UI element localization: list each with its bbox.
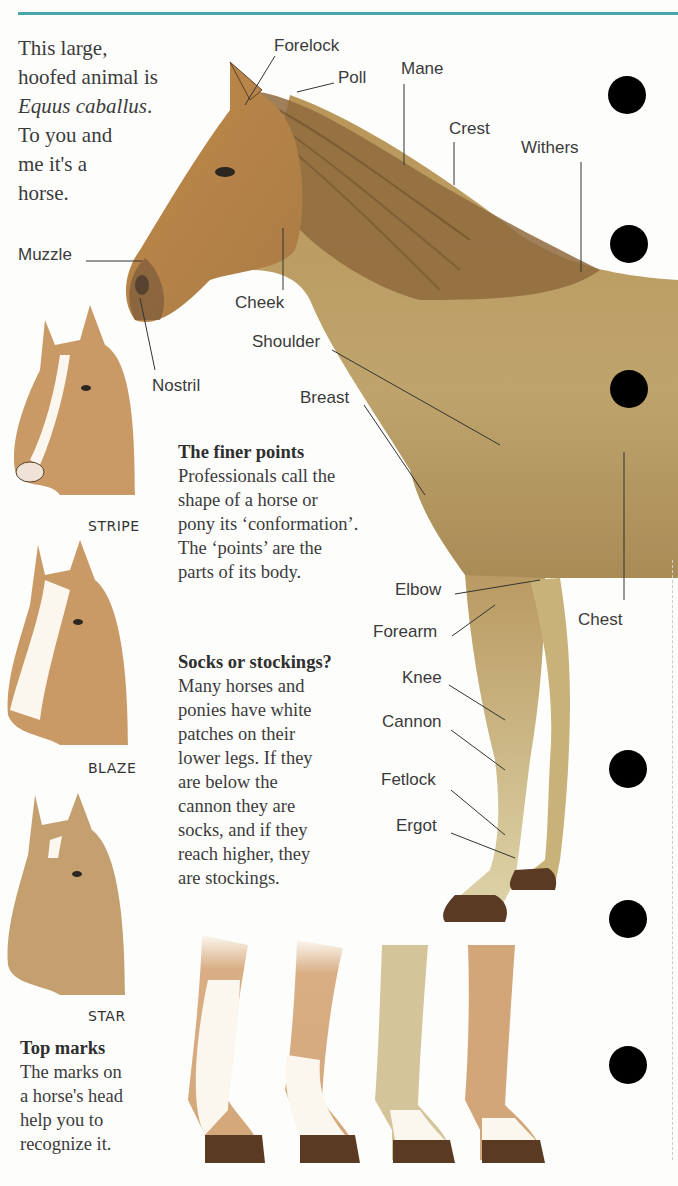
- label-nostril: Nostril: [152, 376, 200, 396]
- label-cheek: Cheek: [235, 293, 284, 313]
- text-line: pony its ‘conformation’.: [178, 514, 358, 534]
- label-knee: Knee: [402, 668, 442, 688]
- intro-paragraph: This large, hoofed animal is Equus cabal…: [18, 34, 198, 208]
- perforation-line: [672, 560, 673, 1160]
- text-line: Many horses and: [178, 676, 304, 696]
- intro-line: This large,: [18, 36, 107, 60]
- binder-hole: [610, 370, 648, 408]
- text-line: recognize it.: [20, 1134, 111, 1154]
- label-shoulder: Shoulder: [252, 332, 320, 352]
- label-crest: Crest: [449, 119, 490, 139]
- intro-line: To you and: [18, 123, 112, 147]
- label-muzzle: Muzzle: [18, 245, 72, 265]
- caption-blaze: BLAZE: [88, 760, 136, 776]
- socks-section: Socks or stockings? Many horses and poni…: [178, 650, 378, 890]
- leg-white-fetlock-illustration: [375, 945, 455, 1163]
- species-name: Equus caballus: [18, 94, 147, 118]
- text-line: ponies have white: [178, 700, 312, 720]
- label-mane: Mane: [401, 59, 444, 79]
- head-blaze-illustration: [8, 540, 128, 745]
- finer-points-section: The finer points Professionals call the …: [178, 440, 418, 584]
- binder-hole: [608, 76, 646, 114]
- text-line: parts of its body.: [178, 562, 301, 582]
- text-line: patches on their: [178, 724, 295, 744]
- caption-stripe: STRIPE: [88, 518, 140, 534]
- socks-heading: Socks or stockings?: [178, 650, 378, 674]
- leg-sock-illustration: [285, 940, 360, 1163]
- label-fetlock: Fetlock: [381, 770, 436, 790]
- text-line: are below the: [178, 772, 278, 792]
- label-forelock: Forelock: [274, 36, 339, 56]
- label-forearm: Forearm: [373, 622, 437, 642]
- text-line: socks, and if they: [178, 820, 307, 840]
- label-cannon: Cannon: [382, 712, 442, 732]
- text-line: help you to: [20, 1110, 103, 1130]
- text-line: are stockings.: [178, 868, 280, 888]
- text-line: The marks on: [20, 1062, 122, 1082]
- binder-hole: [609, 750, 647, 788]
- binder-hole: [610, 225, 648, 263]
- text-line: lower legs. If they: [178, 748, 313, 768]
- label-poll: Poll: [338, 68, 366, 88]
- text-line: shape of a horse or: [178, 490, 318, 510]
- leg-stocking-illustration: [188, 935, 265, 1163]
- caption-star: STAR: [88, 1008, 126, 1024]
- head-stripe-illustration: [14, 305, 135, 495]
- label-breast: Breast: [300, 388, 349, 408]
- text-line: Professionals call the: [178, 466, 335, 486]
- intro-line: horse.: [18, 181, 69, 205]
- intro-line: hoofed animal is: [18, 65, 158, 89]
- leg-white-coronet-illustration: [465, 945, 545, 1163]
- intro-line: me it's a: [18, 152, 87, 176]
- text-line: cannon they are: [178, 796, 295, 816]
- label-withers: Withers: [521, 138, 579, 158]
- binder-hole: [609, 1046, 647, 1084]
- label-ergot: Ergot: [396, 816, 437, 836]
- top-marks-heading: Top marks: [20, 1036, 180, 1060]
- finer-points-heading: The finer points: [178, 440, 418, 464]
- text-line: The ‘points’ are the: [178, 538, 322, 558]
- intro-punct: .: [147, 94, 152, 118]
- binder-hole: [609, 900, 647, 938]
- top-marks-section: Top marks The marks on a horse's head he…: [20, 1036, 180, 1156]
- text-line: a horse's head: [20, 1086, 123, 1106]
- text-line: reach higher, they: [178, 844, 310, 864]
- head-star-illustration: [8, 793, 125, 995]
- label-chest: Chest: [578, 610, 622, 630]
